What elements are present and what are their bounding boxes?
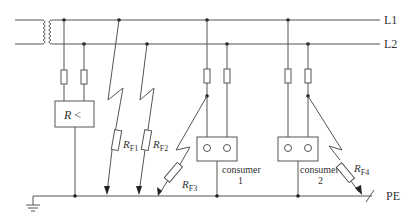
svg-text:consumer: consumer — [300, 164, 340, 175]
fault-rf2: RF2 — [136, 42, 168, 195]
svg-text:1: 1 — [238, 175, 243, 186]
fault-rf1: RF1 — [104, 18, 138, 195]
svg-text:RF2: RF2 — [152, 138, 168, 153]
svg-text:RF3: RF3 — [181, 178, 197, 193]
svg-text:R <: R < — [63, 108, 81, 122]
label-l2: L2 — [384, 37, 397, 51]
svg-text:consumer: consumer — [222, 164, 262, 175]
svg-text:RF1: RF1 — [122, 138, 138, 153]
it-network-diagram: L1 L2 PE R < RF1 RF2 — [0, 0, 416, 220]
label-pe: PE — [386, 189, 400, 203]
label-l1: L1 — [384, 13, 397, 27]
insulation-monitor: R < — [55, 18, 94, 198]
consumer-1: consumer 1 — [197, 18, 262, 198]
svg-text:RF4: RF4 — [353, 162, 369, 177]
transformer-icon — [15, 20, 51, 44]
ground-icon — [26, 196, 40, 211]
svg-text:2: 2 — [318, 175, 323, 186]
consumer-2: consumer 2 — [278, 18, 340, 198]
